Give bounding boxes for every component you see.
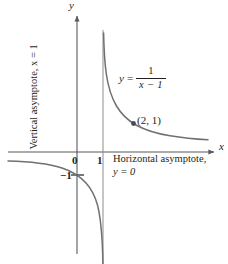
vertical-asymptote-label: Vertical asymptote, x = 1 [28,32,40,162]
curve-left-branch [8,161,103,264]
horizontal-asymptote-line-2: y = 0 [113,166,206,178]
function-graph-figure: y x 0 1 −1 Vertical asymptote, x = 1 Hor… [0,0,228,264]
equation-equals-sign: = [127,72,133,84]
equation-numerator: 1 [145,66,156,78]
equation-label: y = 1 x − 1 [119,66,166,90]
horizontal-asymptote-line-1: Horizontal asymptote, [113,153,206,164]
x-axis-label: x [219,140,224,152]
point-marker-2-1 [131,121,136,126]
y-axis-label: y [69,0,74,11]
equation-lhs: y [119,72,124,84]
horizontal-asymptote-label: Horizontal asymptote, y = 0 [113,153,206,178]
y-tick-label-neg1: −1 [60,169,72,181]
point-label-2-1: (2, 1) [137,114,161,126]
x-tick-label-1: 1 [97,154,103,166]
equation-fraction: 1 x − 1 [136,66,166,90]
x-tick-label-0: 0 [72,154,78,166]
equation-denominator: x − 1 [136,79,166,91]
